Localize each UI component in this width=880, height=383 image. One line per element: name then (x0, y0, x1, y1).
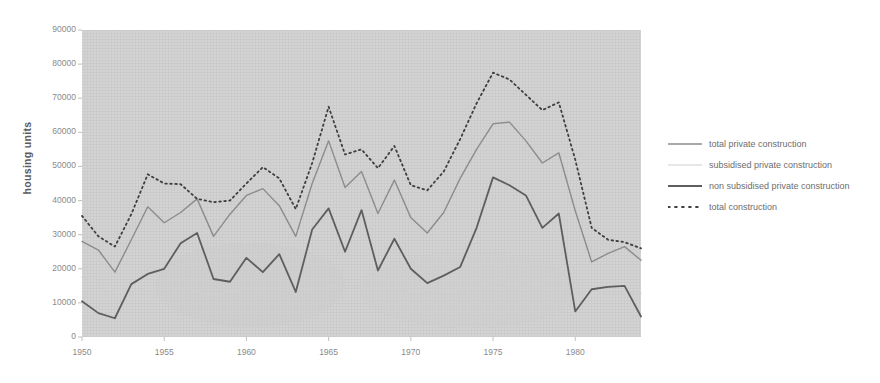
x-tick-label: 1965 (309, 347, 349, 357)
y-tick-label: 20000 (30, 263, 76, 273)
x-axis-tick-labels: 1950195519601965197019751980 (0, 347, 660, 367)
legend-swatch-solid-line-light-gray (668, 159, 702, 171)
legend-label: total private construction (709, 139, 807, 149)
y-tick-label: 10000 (30, 297, 76, 307)
y-tick-label: 50000 (30, 160, 76, 170)
x-tick-label: 1970 (391, 347, 431, 357)
y-tick-label: 40000 (30, 195, 76, 205)
legend-label: total construction (709, 202, 777, 212)
legend-swatch-solid-line-medium-gray (668, 138, 702, 150)
chart-legend: total private constructionsubsidised pri… (668, 133, 878, 217)
legend-item[interactable]: non subsidised private construction (668, 175, 878, 196)
line-chart-plot (0, 0, 660, 383)
legend-label: non subsidised private construction (709, 181, 850, 191)
legend-swatch-dotted-line-dark (668, 201, 702, 213)
y-tick-label: 80000 (30, 58, 76, 68)
legend-label: subsidised private construction (709, 160, 832, 170)
chart-page: housing units 01000020000300004000050000… (0, 0, 880, 383)
x-tick-label: 1980 (555, 347, 595, 357)
scan-artifact-right (360, 252, 580, 328)
legend-item[interactable]: total construction (668, 196, 878, 217)
y-tick-label: 30000 (30, 229, 76, 239)
x-tick-label: 1950 (62, 347, 102, 357)
y-tick-label: 0 (30, 331, 76, 341)
x-tick-label: 1955 (144, 347, 184, 357)
y-tick-label: 60000 (30, 126, 76, 136)
legend-swatch-solid-line-dark-gray (668, 180, 702, 192)
x-tick-label: 1975 (473, 347, 513, 357)
legend-item[interactable]: total private construction (668, 133, 878, 154)
chart-figure: housing units 01000020000300004000050000… (0, 0, 660, 383)
scan-artifact-left (155, 243, 345, 327)
x-tick-label: 1960 (226, 347, 266, 357)
y-axis-tick-labels: 0100002000030000400005000060000700008000… (30, 0, 76, 383)
y-tick-label: 90000 (30, 24, 76, 34)
legend-item[interactable]: subsidised private construction (668, 154, 878, 175)
y-tick-label: 70000 (30, 92, 76, 102)
